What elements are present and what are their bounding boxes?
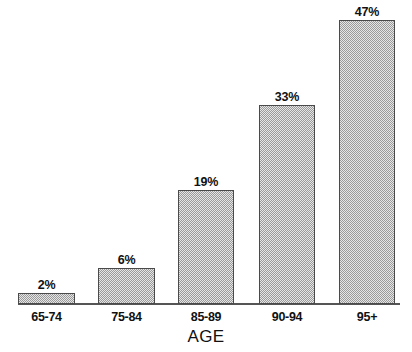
x-tick-label-65-74: 65-74 bbox=[18, 310, 75, 325]
bar-85-89 bbox=[178, 190, 234, 304]
x-tick-label-90-94: 90-94 bbox=[259, 310, 315, 325]
bar-90-94 bbox=[259, 105, 315, 304]
bar-value-label: 2% bbox=[18, 278, 75, 292]
x-tick-label-95-plus: 95+ bbox=[339, 310, 395, 325]
x-axis-title: AGE bbox=[0, 327, 412, 346]
bar-value-label: 33% bbox=[259, 90, 315, 104]
x-tick-label-75-84: 75-84 bbox=[98, 310, 155, 325]
bar-65-74 bbox=[18, 293, 75, 304]
plot-area: 2% 6% 19% 33% 47% 65-74 75-84 85-89 90-9… bbox=[0, 0, 412, 352]
bar-value-label: 19% bbox=[178, 175, 234, 189]
bar-value-label: 6% bbox=[98, 253, 155, 267]
bar-95-plus bbox=[339, 20, 395, 304]
bar-value-label: 47% bbox=[339, 5, 395, 19]
bar-75-84 bbox=[98, 268, 155, 304]
x-tick-label-85-89: 85-89 bbox=[178, 310, 234, 325]
bar-chart: 2% 6% 19% 33% 47% 65-74 75-84 85-89 90-9… bbox=[0, 0, 412, 352]
